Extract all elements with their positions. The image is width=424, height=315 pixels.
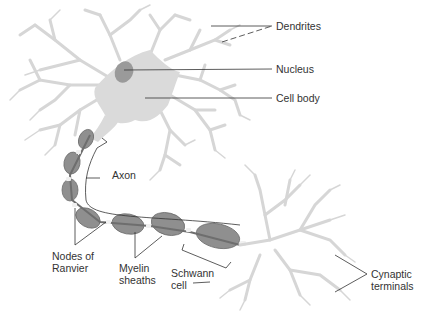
label-schwann-cell: Schwann cell [171, 267, 214, 291]
cell-body [94, 50, 180, 123]
label-synaptic-terminals: Cynaptic terminals [371, 268, 414, 292]
label-nodes-line2: Ranvier [52, 262, 94, 274]
label-cell-body: Cell body [276, 92, 320, 104]
label-terminals-line2: terminals [371, 280, 414, 292]
label-myelin-sheaths: Myelin sheaths [119, 262, 156, 286]
label-myelin-line1: Myelin [119, 262, 156, 274]
label-schwann-line1: Schwann [171, 267, 214, 279]
label-schwann-line2: cell [171, 279, 214, 291]
label-nodes-of-ranvier: Nodes of Ranvier [52, 250, 94, 274]
label-axon: Axon [112, 169, 136, 181]
label-terminals-line1: Cynaptic [371, 268, 414, 280]
label-nucleus: Nucleus [276, 63, 314, 75]
label-nodes-line1: Nodes of [52, 250, 94, 262]
label-myelin-line2: sheaths [119, 274, 156, 286]
label-dendrites: Dendrites [276, 20, 321, 32]
synaptic-terminals [230, 175, 345, 300]
